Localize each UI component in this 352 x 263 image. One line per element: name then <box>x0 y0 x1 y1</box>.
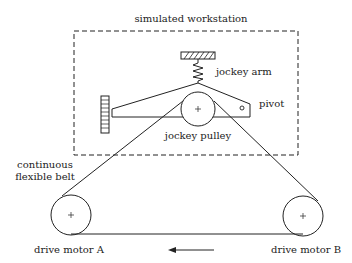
motor-b-center-icon <box>300 213 306 219</box>
ratchet-stop-icon <box>101 96 109 133</box>
motor-a-label: drive motor A <box>34 244 105 255</box>
motor-a-center-icon <box>68 212 74 218</box>
belt-drive-diagram: simulated workstation jockey arm pivot <box>0 0 352 263</box>
belt-right-run <box>214 101 318 201</box>
spring-icon <box>193 59 203 84</box>
jockey-pulley-label: jockey pulley <box>164 130 232 141</box>
motor-b-label: drive motor B <box>271 244 341 255</box>
belt-label-line1: continuous <box>17 159 73 170</box>
pivot-label: pivot <box>259 98 284 109</box>
belt-label-line2: flexible belt <box>15 171 75 182</box>
workstation-title: simulated workstation <box>134 13 248 24</box>
jockey-arm-label: jockey arm <box>215 66 272 77</box>
spring-anchor-icon <box>181 52 215 59</box>
direction-arrow-left-icon <box>168 247 214 253</box>
